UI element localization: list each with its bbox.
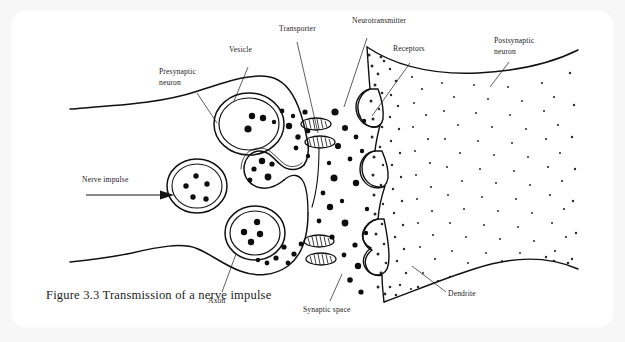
label-receptors: Receptors — [393, 44, 425, 53]
label-nerve-impulse: Nerve impulse — [82, 175, 129, 184]
synapse-diagram: Presynaptic neuron Vesicle Transporter N… — [12, 11, 613, 327]
transporter-lower-2 — [306, 253, 336, 265]
leader-presynaptic — [197, 93, 217, 123]
page-background: Presynaptic neuron Vesicle Transporter N… — [0, 0, 625, 342]
label-transporter: Transporter — [279, 24, 316, 33]
leader-neurotransmitter — [344, 38, 367, 107]
label-synaptic-space: Synaptic space — [303, 305, 351, 314]
label-vesicle: Vesicle — [229, 45, 252, 54]
label-presynaptic-neuron-line2: neuron — [159, 78, 181, 87]
ghost-header-text — [0, 0, 625, 11]
leader-synaptic-space — [330, 274, 342, 301]
transporter-upper-2 — [305, 136, 335, 148]
label-postsynaptic-neuron-line2: neuron — [494, 47, 516, 56]
figure-card: Presynaptic neuron Vesicle Transporter N… — [12, 11, 613, 327]
label-postsynaptic-neuron-line1: Postsynaptic — [494, 36, 535, 45]
leader-axon — [222, 254, 236, 292]
label-presynaptic-neuron-line1: Presynaptic — [159, 67, 197, 76]
nerve-impulse-arrow — [86, 191, 174, 200]
figure-caption: Figure 3.3 Transmission of a nerve impul… — [46, 288, 271, 303]
leader-vesicle — [234, 67, 248, 101]
vesicle-fusing — [248, 158, 275, 183]
vesicle-bottom — [225, 206, 285, 260]
vesicle-middle-free — [167, 159, 227, 213]
label-neurotransmitter: Neurotransmitter — [352, 16, 407, 25]
postsynaptic-neuron-body — [358, 41, 592, 311]
label-dendrite: Dendrite — [448, 289, 476, 298]
transporter-stalk-upper — [312, 148, 319, 207]
